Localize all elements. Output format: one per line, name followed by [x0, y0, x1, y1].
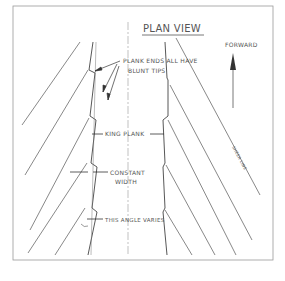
plank-ends-leaders: [95, 61, 120, 100]
plan-view-drawing: PLAN VIEW FORWARD PLANK ENDS ALL HAVE BL…: [0, 0, 285, 281]
side-note-label: SHEER LINE: [231, 145, 248, 171]
forward-label: FORWARD: [225, 41, 258, 48]
left-king-plank-edge: [88, 42, 97, 255]
angle-varies-label: THIS ANGLE VARIES: [104, 217, 165, 223]
forward-arrow-icon: [230, 53, 236, 108]
king-plank-label: KING PLANK: [105, 130, 145, 137]
plank-ends-label-line2: BLUNT TIPS: [128, 67, 165, 74]
constant-width-label-line1: CONSTANT: [110, 169, 145, 176]
plank-ends-label-line1: PLANK ENDS ALL HAVE: [123, 57, 198, 64]
angle-arc: [81, 224, 88, 227]
constant-width-label-line2: WIDTH: [115, 178, 137, 185]
left-king-plank-inner: [91, 42, 96, 255]
page-title: PLAN VIEW: [143, 23, 201, 34]
right-planking-lines: [165, 38, 260, 255]
left-planking-lines: [22, 42, 89, 255]
